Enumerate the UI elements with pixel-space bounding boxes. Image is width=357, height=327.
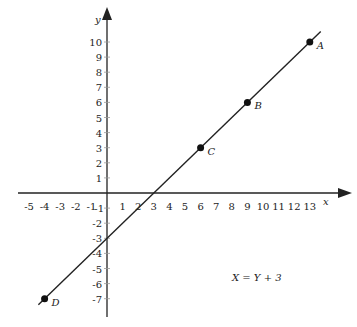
- x-tick-label: 9: [244, 201, 250, 212]
- data-line: [38, 31, 320, 304]
- x-tick-label: 6: [197, 201, 203, 212]
- point-a: [306, 39, 313, 46]
- y-tick-label: -3: [92, 233, 102, 244]
- x-tick-label: 5: [182, 201, 188, 212]
- point-b: [244, 99, 251, 106]
- y-tick-label: -7: [92, 294, 102, 305]
- y-tick-label: -1: [94, 203, 104, 214]
- x-tick-label: -4: [40, 201, 50, 212]
- y-tick-label: 9: [96, 52, 102, 63]
- x-axis-arrow-icon: [338, 188, 352, 198]
- y-tick-label: 6: [96, 97, 102, 108]
- y-tick-label: 7: [96, 82, 102, 93]
- y-tick-label: 8: [96, 67, 102, 78]
- x-tick-label: 3: [151, 201, 157, 212]
- x-tick-label: -5: [24, 201, 34, 212]
- x-tick-label: 7: [213, 201, 219, 212]
- ticks: -5-4-3-2-112345678910111213-7-6-5-4-3-2-…: [24, 37, 316, 305]
- y-tick-label: 2: [96, 158, 102, 169]
- x-tick-label: -2: [71, 201, 81, 212]
- point-label: B: [253, 100, 261, 111]
- y-tick-label: -2: [92, 218, 102, 229]
- y-tick-label: 10: [89, 37, 102, 48]
- y-tick-label: 5: [96, 113, 102, 124]
- x-tick-label: 4: [166, 201, 172, 212]
- y-tick-label: 3: [96, 143, 102, 154]
- y-tick-label: -6: [92, 279, 102, 290]
- point-c: [197, 144, 204, 151]
- y-tick-label: 4: [96, 128, 102, 139]
- y-tick-label: -5: [92, 264, 102, 275]
- x-tick-label: 12: [288, 201, 301, 212]
- y-axis-arrow-icon: [102, 7, 112, 20]
- equation-label: X = Y + 3: [231, 272, 282, 283]
- y-tick-label: -4: [92, 248, 102, 259]
- data-points: ABCD: [41, 39, 324, 308]
- line-graph: xy -5-4-3-2-112345678910111213-7-6-5-4-3…: [0, 0, 357, 327]
- x-tick-label: 13: [303, 201, 316, 212]
- x-tick-label: -3: [55, 201, 65, 212]
- point-label: A: [316, 40, 324, 51]
- y-axis-label: y: [94, 14, 101, 25]
- x-tick-label: 11: [272, 201, 285, 212]
- x-tick-label: 1: [119, 201, 125, 212]
- point-label: D: [51, 297, 60, 308]
- x-axis-label: x: [323, 196, 329, 207]
- x-tick-label: 10: [257, 201, 270, 212]
- point-d: [41, 295, 48, 302]
- point-label: C: [208, 146, 216, 157]
- x-tick-label: 8: [229, 201, 235, 212]
- y-tick-label: 1: [96, 173, 102, 184]
